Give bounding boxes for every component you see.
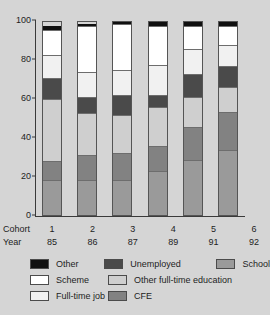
legend-swatch — [30, 275, 49, 285]
bar-segment — [113, 70, 131, 95]
legend-label: CFE — [134, 291, 152, 301]
bar-segment — [78, 113, 96, 155]
legend-swatch — [30, 259, 49, 269]
bar-segment — [184, 26, 202, 49]
bar-segment — [184, 97, 202, 128]
category-cells: 858687899192 — [36, 237, 270, 247]
category-cell: 86 — [82, 237, 102, 247]
bar-segment — [43, 55, 61, 78]
legend-label: School — [242, 259, 270, 269]
legend-swatch — [108, 275, 127, 285]
bar-6 — [218, 21, 238, 216]
category-cell: 85 — [42, 237, 62, 247]
plot-area: 020406080100 — [36, 21, 244, 216]
category-cell: 1 — [42, 224, 62, 234]
legend-label: Unemployed — [130, 259, 181, 269]
legend-row: Full-time jobCFE — [30, 288, 270, 304]
bar-segment — [219, 66, 237, 87]
category-row-label: Cohort — [0, 224, 36, 234]
bar-segment — [78, 97, 96, 112]
bar-group — [36, 21, 244, 216]
legend-row: SchemeOther full-time education — [30, 272, 270, 288]
legend-item: Other — [30, 259, 104, 269]
bar-segment — [149, 26, 167, 65]
bar-segment — [78, 26, 96, 72]
legend-item: School — [216, 259, 270, 269]
legend-swatch — [216, 259, 235, 269]
bar-segment — [149, 146, 167, 171]
bar-segment — [184, 160, 202, 215]
legend-label: Full-time job — [56, 291, 105, 301]
category-row-label: Year — [0, 237, 36, 247]
bar-segment — [149, 107, 167, 146]
category-cell: 91 — [204, 237, 224, 247]
legend-item: Unemployed — [104, 259, 216, 269]
x-axis-line — [35, 216, 245, 217]
bar-segment — [78, 72, 96, 97]
legend-item: Full-time job — [30, 291, 108, 301]
category-cell: 2 — [82, 224, 102, 234]
bar-1 — [42, 21, 62, 216]
bar-segment — [43, 78, 61, 99]
bar-segment — [184, 74, 202, 97]
bar-3 — [112, 21, 132, 216]
bar-segment — [184, 49, 202, 74]
category-row-cohort: Cohort123456 — [0, 222, 270, 235]
bar-segment — [149, 95, 167, 107]
category-cell: 87 — [123, 237, 143, 247]
bar-segment — [43, 99, 61, 161]
bar-segment — [43, 161, 61, 180]
bar-segment — [219, 45, 237, 66]
bar-segment — [113, 153, 131, 180]
category-row-year: Year858687899192 — [0, 235, 270, 248]
legend-item: CFE — [108, 291, 226, 301]
category-cell: 6 — [244, 224, 264, 234]
legend-label: Scheme — [56, 275, 89, 285]
legend-item: Other full-time education — [108, 275, 226, 285]
legend-swatch — [30, 291, 49, 301]
bar-segment — [219, 112, 237, 150]
bar-segment — [149, 171, 167, 215]
category-axis-labels: Cohort123456Year858687899192 — [0, 222, 270, 248]
bar-segment — [184, 127, 202, 159]
legend-label: Other full-time education — [134, 275, 232, 285]
bar-5 — [183, 21, 203, 216]
legend-swatch — [108, 291, 127, 301]
bar-segment — [43, 30, 61, 55]
bar-segment — [78, 180, 96, 215]
stacked-bar-chart: 020406080100 Cohort123456Year85868789919… — [0, 0, 270, 315]
bar-segment — [219, 26, 237, 45]
bar-segment — [43, 180, 61, 215]
bar-segment — [219, 150, 237, 215]
chart-legend: OtherUnemployedSchoolSchemeOther full-ti… — [30, 256, 270, 304]
category-cell: 89 — [163, 237, 183, 247]
legend-item: Scheme — [30, 275, 108, 285]
category-cell: 4 — [163, 224, 183, 234]
bar-segment — [219, 87, 237, 112]
bar-segment — [78, 155, 96, 180]
category-cells: 123456 — [36, 224, 270, 234]
bar-2 — [77, 21, 97, 216]
bar-4 — [148, 21, 168, 216]
bar-segment — [113, 180, 131, 215]
legend-row: OtherUnemployedSchool — [30, 256, 270, 272]
category-cell: 5 — [204, 224, 224, 234]
legend-swatch — [104, 259, 123, 269]
bar-segment — [113, 95, 131, 114]
legend-label: Other — [56, 259, 79, 269]
category-cell: 92 — [244, 237, 264, 247]
bar-segment — [149, 65, 167, 96]
category-cell: 3 — [123, 224, 143, 234]
bar-segment — [113, 24, 131, 70]
bar-segment — [113, 115, 131, 154]
